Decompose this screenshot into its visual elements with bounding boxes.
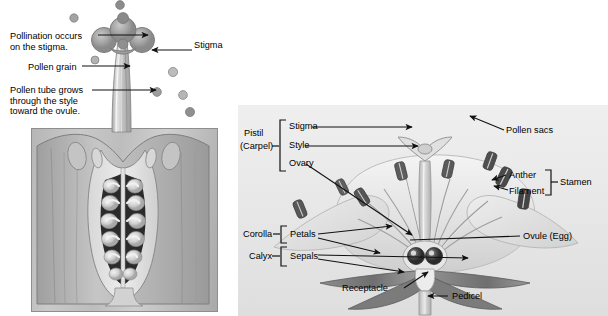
label-carpel: (Carpel) <box>240 141 273 152</box>
label-style: Style <box>289 140 309 151</box>
label-pollination-occurs-line2: on the stigma. <box>10 42 68 52</box>
label-pollen-tube-line1: Pollen tube grows <box>10 85 83 95</box>
left-panel-pollination: Pollination occurson the stigma. Pollen … <box>0 0 238 316</box>
label-stamen: Stamen <box>560 177 592 188</box>
label-petals: Petals <box>290 229 316 240</box>
label-pollen-sacs: Pollen sacs <box>506 125 553 136</box>
label-pollen-tube-line2: through the style <box>10 96 78 106</box>
label-filament: Filament <box>509 186 544 197</box>
label-stigma-right: Stigma <box>289 121 318 132</box>
label-stigma-left-panel: Stigma <box>194 40 223 51</box>
label-pollination-occurs: Pollination occurson the stigma. <box>10 31 82 52</box>
label-calyx: Calyx <box>249 251 272 262</box>
pollination-illustration <box>31 128 216 310</box>
label-pollen-grain: Pollen grain <box>28 62 77 73</box>
label-pistil: Pistil <box>244 128 263 139</box>
label-anther: Anther <box>509 170 536 181</box>
label-ovule-egg: Ovule (Egg) <box>523 231 572 242</box>
label-corolla: Corolla <box>243 229 272 240</box>
label-ovary: Ovary <box>289 158 314 169</box>
figure-canvas: Pollination occurson the stigma. Pollen … <box>0 0 608 316</box>
label-receptacle: Receptacle <box>342 283 388 294</box>
label-pollen-tube: Pollen tube growsthrough the styletoward… <box>10 85 83 117</box>
ovary-artwork <box>31 128 216 310</box>
label-pollination-occurs-line1: Pollination occurs <box>10 31 82 41</box>
flower-illustration <box>238 105 608 316</box>
label-pedicel: Pedicel <box>452 291 482 302</box>
label-sepals: Sepals <box>290 251 318 262</box>
label-pollen-tube-line3: toward the ovule. <box>10 106 80 116</box>
right-panel-flower-anatomy <box>238 105 608 316</box>
